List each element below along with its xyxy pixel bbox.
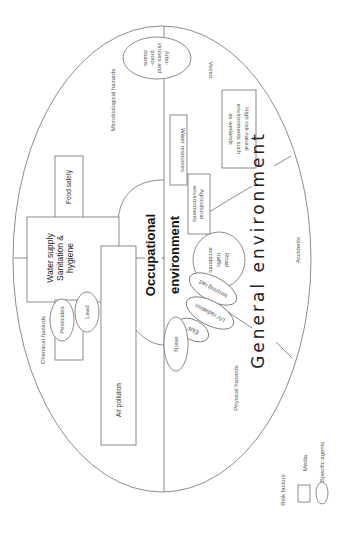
occupational-environment-title-2: environment xyxy=(167,215,182,294)
road-text-3: accidents xyxy=(208,247,214,272)
air-pollution-label: Air pollution xyxy=(115,383,123,417)
divider-line-2 xyxy=(274,156,291,166)
agricultural-text-1: Agricultural xyxy=(199,189,205,219)
high-risk-text-3: as wetlands xyxy=(228,113,234,145)
divider-line-1 xyxy=(209,186,252,212)
chemical-hazards-label: Chemical hazards xyxy=(40,316,46,364)
risk-factor-diagram: Arbo- viruses and proto- zoans Microbiol… xyxy=(0,0,345,539)
arbo-text-1: Arbo- xyxy=(164,51,170,66)
pesticides-label: Pesticides xyxy=(59,306,65,333)
road-text-2: traffic xyxy=(216,253,222,268)
legend-agent-swatch xyxy=(316,482,328,504)
divider-line-4 xyxy=(276,342,292,358)
occupational-environment-title-1: Occupational xyxy=(143,214,158,296)
lead-label: Lead xyxy=(84,305,90,318)
water-supply-text-3: hygiene xyxy=(65,243,75,273)
noise-label: Noise xyxy=(173,336,179,352)
legend-media-swatch xyxy=(298,485,310,502)
road-text-1: Road xyxy=(224,253,230,267)
accidents-label: Accidents xyxy=(295,237,301,263)
physical-hazards-label: Physical hazards xyxy=(233,365,239,410)
microbiological-hazards-label: Microbiological hazards xyxy=(110,69,116,132)
arbo-agent-ellipse xyxy=(123,37,191,79)
occupational-arrow-icon: ^ xyxy=(161,256,167,259)
occupational-arc-bottom xyxy=(136,330,164,345)
high-risk-text-2: environments such xyxy=(236,104,242,154)
agricultural-text-2: environments xyxy=(192,186,198,222)
water-resources-label: Water resources xyxy=(180,128,186,172)
agricultural-environments-box xyxy=(188,174,210,234)
arbo-text-4: zoans xyxy=(143,50,149,66)
water-supply-text-1: Water supply xyxy=(45,233,55,283)
food-safety-label: Food safety xyxy=(65,169,73,204)
arbo-text-3: proto- xyxy=(150,50,156,66)
arbo-text-2: viruses and xyxy=(157,43,163,74)
water-supply-text-2: Sanitation & xyxy=(55,235,65,281)
general-environment-title: General environment xyxy=(248,131,268,369)
legend-media-label: Media xyxy=(302,454,308,471)
legend-specific-agents-label: Specific agents xyxy=(319,442,325,483)
vector-label: Vector xyxy=(208,61,214,78)
legend-title: Risk factors xyxy=(280,474,286,505)
